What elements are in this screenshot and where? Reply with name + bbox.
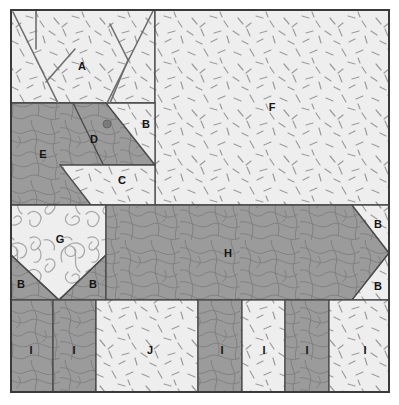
diagram-canvas: A B C D E F G B B H B B I I J I I I I (0, 0, 399, 405)
region-label-b5: B (374, 280, 382, 292)
region-label-b2: B (17, 278, 25, 290)
region-label-i5: I (305, 344, 308, 356)
region-label-i2: I (72, 344, 75, 356)
region-label-a: A (78, 60, 86, 72)
point-marker-d[interactable] (103, 120, 111, 128)
region-label-c: C (118, 174, 126, 186)
region-a[interactable] (11, 10, 155, 103)
region-label-j: J (147, 344, 153, 356)
region-label-e: E (39, 148, 46, 160)
region-label-i1: I (29, 344, 32, 356)
region-label-g: G (56, 233, 65, 245)
region-label-b3: B (89, 278, 97, 290)
region-label-i3: I (220, 344, 223, 356)
region-label-h: H (224, 247, 232, 259)
region-h[interactable] (106, 205, 389, 300)
region-i6[interactable] (329, 300, 389, 392)
region-label-b1: B (142, 118, 150, 130)
region-label-i4: I (262, 344, 265, 356)
site-plan-svg: A B C D E F G B B H B B I I J I I I I (0, 0, 399, 405)
region-label-i6: I (363, 344, 366, 356)
region-label-f: F (269, 101, 276, 113)
region-label-b4: B (374, 218, 382, 230)
region-label-d: D (90, 133, 98, 145)
